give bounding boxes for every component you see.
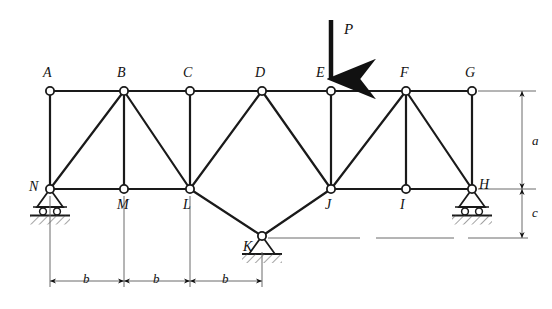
joint-G xyxy=(468,87,476,95)
joint-label-I: I xyxy=(400,198,405,212)
truss-member-LD xyxy=(190,91,262,189)
joint-label-N: N xyxy=(29,180,38,194)
joint-label-F: F xyxy=(400,66,409,80)
joint-label-H: H xyxy=(479,178,489,192)
joint-label-M: M xyxy=(117,198,129,212)
joint-label-C: C xyxy=(183,66,192,80)
load-label-P: P xyxy=(344,22,353,37)
ground-hatching xyxy=(452,216,492,225)
joint-L xyxy=(186,185,194,193)
truss-member-KJ xyxy=(262,189,331,236)
dimension-label-b-2: b xyxy=(153,272,160,285)
dimension-label-c: c xyxy=(532,206,538,219)
truss-member-BL xyxy=(124,91,190,189)
truss-drawing-canvas xyxy=(0,0,552,309)
truss-member-JF xyxy=(331,91,406,189)
joint-H xyxy=(468,185,476,193)
joint-label-D: D xyxy=(255,66,265,80)
truss-members-group xyxy=(50,91,472,236)
truss-member-DJ xyxy=(262,91,331,189)
joint-E xyxy=(327,87,335,95)
joint-label-G: G xyxy=(465,66,475,80)
roller-wheel-1 xyxy=(462,208,469,215)
roller-wheel-2 xyxy=(476,208,483,215)
roller-wheel-1 xyxy=(40,208,47,215)
truss-diagram-figure: ABCDEFGHIJKLMNPbbbac xyxy=(0,0,552,309)
joint-label-K: K xyxy=(243,240,252,254)
joint-D xyxy=(258,87,266,95)
joint-J xyxy=(327,185,335,193)
joint-M xyxy=(120,185,128,193)
joint-label-J: J xyxy=(325,198,331,212)
joint-N xyxy=(46,185,54,193)
joint-B xyxy=(120,87,128,95)
truss-member-LK xyxy=(190,189,262,236)
joint-label-L: L xyxy=(183,198,191,212)
support-roller-at-H xyxy=(452,189,492,225)
dimension-label-b-1: b xyxy=(83,272,90,285)
joint-label-E: E xyxy=(316,66,325,80)
joint-C xyxy=(186,87,194,95)
dimension-label-a: a xyxy=(532,134,539,147)
truss-member-FH xyxy=(406,91,472,189)
joint-label-A: A xyxy=(43,66,52,80)
truss-supports-group xyxy=(30,189,492,263)
joint-I xyxy=(402,185,410,193)
dimension-label-b-3: b xyxy=(222,272,229,285)
roller-wheel-2 xyxy=(54,208,61,215)
joint-label-B: B xyxy=(117,66,126,80)
joint-K xyxy=(258,232,266,240)
joint-A xyxy=(46,87,54,95)
joint-F xyxy=(402,87,410,95)
truss-member-NB xyxy=(50,91,124,189)
